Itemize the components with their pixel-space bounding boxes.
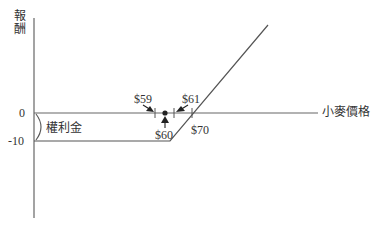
premium-brace xyxy=(36,114,41,140)
arrow-60-head xyxy=(161,116,169,123)
price-label-70: $70 xyxy=(191,124,209,136)
arrow-61-head xyxy=(176,106,185,112)
arrow-59-head xyxy=(146,106,154,112)
x-axis-label: 小麥價格 xyxy=(322,106,370,118)
y-axis-label-line2: 酬 xyxy=(13,23,27,36)
price-label-61: $61 xyxy=(182,93,200,105)
tick-label-minus10: -10 xyxy=(8,135,24,147)
premium-label: 權利金 xyxy=(46,122,82,134)
price-label-59: $59 xyxy=(134,93,152,105)
strike-point xyxy=(162,110,167,115)
tick-label-zero: 0 xyxy=(19,107,25,119)
price-label-60: $60 xyxy=(155,129,173,141)
y-axis-label: 報 酬 xyxy=(13,10,27,36)
